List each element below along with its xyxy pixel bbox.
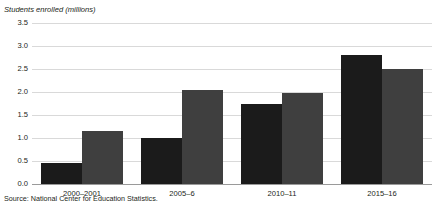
plot-area: 0.00.51.01.52.02.53.03.5 2000–20012005–6… bbox=[32, 23, 432, 184]
gridline bbox=[32, 184, 432, 185]
x-axis-tick-label: 2015–16 bbox=[367, 189, 397, 198]
source-note: Source: National Center for Education St… bbox=[4, 194, 158, 203]
bar-series-2-0 bbox=[82, 131, 123, 184]
cutoff-chart-title bbox=[0, 0, 436, 4]
bar-series-2-1 bbox=[182, 90, 223, 184]
bars-group bbox=[32, 23, 432, 184]
y-axis-tick-label: 2.5 bbox=[17, 65, 28, 73]
y-axis-title: Students enrolled (millions) bbox=[4, 5, 96, 15]
bar-series-2-3 bbox=[382, 69, 423, 184]
bar-series-1-2 bbox=[241, 104, 282, 185]
x-axis-tick-label: 2010–11 bbox=[268, 189, 297, 198]
bar-series-1-0 bbox=[41, 163, 82, 184]
bar-chart-figure: Students enrolled (millions) 0.00.51.01.… bbox=[0, 0, 436, 210]
x-axis-tick-label: 2005–6 bbox=[169, 189, 194, 198]
y-axis-tick-label: 1.5 bbox=[17, 111, 28, 119]
y-axis-tick-label: 3.5 bbox=[17, 19, 28, 27]
bar-series-1-1 bbox=[141, 138, 182, 184]
y-axis-tick-label: 3.0 bbox=[17, 42, 28, 50]
y-axis-tick-label: 0.5 bbox=[17, 157, 28, 165]
y-axis-tick-label: 0.0 bbox=[17, 180, 28, 188]
y-axis-tick-label: 1.0 bbox=[17, 134, 28, 142]
bar-series-1-3 bbox=[341, 55, 382, 184]
y-axis-tick-label: 2.0 bbox=[17, 88, 28, 96]
bar-series-2-2 bbox=[282, 93, 323, 184]
